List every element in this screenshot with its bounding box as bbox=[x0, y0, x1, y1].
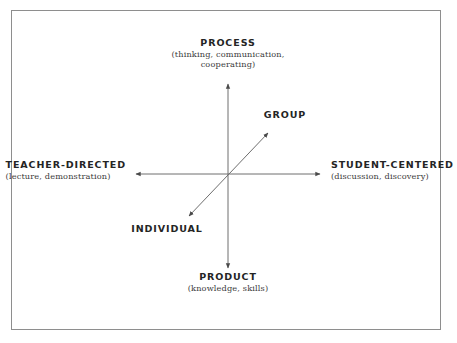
axis-label-product: PRODUCT (knowledge, skills) bbox=[188, 272, 269, 294]
axis-label-student-centered-detail: (discussion, discovery) bbox=[331, 172, 454, 181]
detail-line: (knowledge, skills) bbox=[188, 284, 269, 293]
axis-label-student-centered-heading: STUDENT-CENTERED bbox=[331, 160, 454, 171]
axis-label-process-heading: PROCESS bbox=[171, 38, 284, 49]
detail-line: cooperating) bbox=[171, 60, 284, 69]
axis-label-process: PROCESS (thinking, communication, cooper… bbox=[171, 38, 284, 69]
axis-label-group-heading: GROUP bbox=[264, 110, 306, 121]
axis-label-teacher-directed-detail: (lecture, demonstration) bbox=[6, 172, 126, 181]
detail-line: (discussion, discovery) bbox=[331, 172, 454, 181]
axis-label-student-centered: STUDENT-CENTERED (discussion, discovery) bbox=[320, 160, 454, 182]
axis-label-product-heading: PRODUCT bbox=[188, 272, 269, 283]
axis-label-process-detail: (thinking, communication, cooperating) bbox=[171, 50, 284, 69]
axis-label-product-detail: (knowledge, skills) bbox=[188, 284, 269, 293]
axis-label-individual-heading: INDIVIDUAL bbox=[131, 224, 203, 235]
detail-line: (lecture, demonstration) bbox=[6, 172, 126, 181]
axis-label-group: GROUP bbox=[264, 110, 306, 121]
axis-label-teacher-directed-heading: TEACHER-DIRECTED bbox=[6, 160, 126, 171]
axis-label-teacher-directed: TEACHER-DIRECTED (lecture, demonstration… bbox=[6, 160, 136, 182]
axis-label-individual: INDIVIDUAL bbox=[131, 224, 203, 235]
diagram-canvas: PROCESS (thinking, communication, cooper… bbox=[0, 0, 457, 343]
